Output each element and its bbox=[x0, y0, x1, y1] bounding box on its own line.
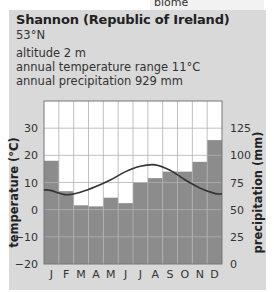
precipitation-tick-label: 25 bbox=[230, 231, 244, 244]
precipitation-bar bbox=[59, 191, 74, 264]
precipitation-bar bbox=[103, 198, 118, 264]
temperature-tick-label: 20 bbox=[24, 149, 38, 162]
month-label: A bbox=[151, 268, 159, 281]
month-label: M bbox=[76, 268, 86, 281]
precipitation-tick-label: 0 bbox=[230, 258, 237, 271]
precipitation-bar bbox=[178, 172, 193, 264]
precipitation-tick-label: 100 bbox=[230, 149, 251, 162]
precipitation-bar bbox=[74, 205, 89, 264]
temperature-tick-label: −20 bbox=[15, 258, 38, 271]
temperature-tick-label: 30 bbox=[24, 122, 38, 135]
temperature-tick-label: 0 bbox=[31, 204, 38, 217]
month-label: N bbox=[196, 268, 204, 281]
precipitation-bar bbox=[44, 161, 59, 264]
temperature-tick-label: 10 bbox=[24, 177, 38, 190]
temperature-axis-title: temperature (°C) bbox=[7, 137, 21, 248]
month-label: J bbox=[138, 268, 142, 281]
precipitation-tick-label: 50 bbox=[230, 204, 244, 217]
month-label: O bbox=[181, 268, 190, 281]
month-label: A bbox=[92, 268, 100, 281]
month-label: J bbox=[123, 268, 127, 281]
climate-chart: −20−1001020300255075100125JFMAMJJASONDte… bbox=[0, 0, 274, 292]
precipitation-axis-title: precipitation (mm) bbox=[251, 132, 265, 254]
precipitation-tick-label: 75 bbox=[230, 177, 244, 190]
month-label: F bbox=[63, 268, 69, 281]
month-label: M bbox=[106, 268, 116, 281]
precipitation-bar bbox=[118, 203, 133, 264]
precipitation-bar bbox=[133, 183, 148, 265]
month-label: D bbox=[210, 268, 218, 281]
precipitation-bar bbox=[163, 172, 178, 264]
precipitation-tick-label: 125 bbox=[230, 122, 251, 135]
precipitation-bar bbox=[148, 178, 163, 264]
precipitation-bar bbox=[89, 206, 104, 264]
month-label: J bbox=[49, 268, 53, 281]
precipitation-bar bbox=[192, 162, 207, 264]
precipitation-bar bbox=[207, 140, 222, 264]
month-label: S bbox=[167, 268, 174, 281]
